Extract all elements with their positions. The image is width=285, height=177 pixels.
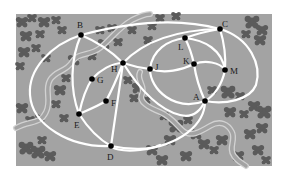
label-L: L <box>178 42 184 52</box>
label-M: M <box>230 66 238 76</box>
node-E[interactable] <box>76 111 82 117</box>
label-J: J <box>155 62 159 72</box>
label-D: D <box>107 152 114 162</box>
node-B[interactable] <box>78 32 84 38</box>
node-G[interactable] <box>89 76 95 82</box>
label-A: A <box>193 92 200 102</box>
label-K: K <box>183 56 190 66</box>
label-B: B <box>77 20 83 30</box>
node-A[interactable] <box>202 98 208 104</box>
node-M[interactable] <box>222 67 228 73</box>
node-K[interactable] <box>191 61 197 67</box>
label-C: C <box>222 19 228 29</box>
label-E: E <box>74 120 80 130</box>
node-L[interactable] <box>182 35 188 41</box>
label-H: H <box>111 64 118 74</box>
map-canvas: ABCDEFGHJKLM <box>0 0 285 177</box>
node-J[interactable] <box>147 66 153 72</box>
node-H[interactable] <box>120 60 126 66</box>
label-G: G <box>97 75 104 85</box>
node-D[interactable] <box>108 143 114 149</box>
label-F: F <box>111 98 116 108</box>
park-map: ABCDEFGHJKLM <box>0 0 285 177</box>
node-F[interactable] <box>103 98 109 104</box>
